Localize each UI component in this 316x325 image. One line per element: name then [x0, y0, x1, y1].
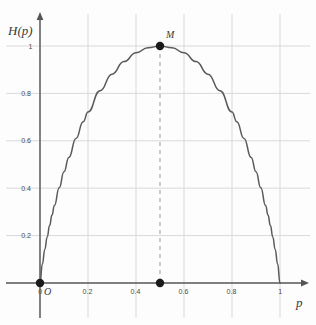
data-point-marker — [156, 42, 164, 50]
x-tick-label: 0.2 — [83, 288, 93, 295]
x-tick-label: 0.6 — [179, 288, 189, 295]
y-axis-title: H(p) — [8, 24, 33, 37]
x-axis-title: p — [296, 296, 303, 309]
x-tick-label: 0.8 — [227, 288, 237, 295]
data-point-marker — [156, 279, 164, 287]
x-axis-arrow-icon — [301, 280, 309, 287]
y-tick-label: 1 — [28, 43, 32, 50]
origin-label: O — [44, 287, 51, 297]
y-tick-label: 0.6 — [21, 137, 31, 144]
peak-point-label: M — [166, 30, 174, 40]
x-tick-label: 0.4 — [131, 288, 141, 295]
y-axis-arrow-icon — [37, 12, 44, 20]
entropy-chart-figure: H(p) p O M 00.20.40.60.810.20.40.60.81 — [0, 0, 316, 325]
data-point-marker — [36, 279, 44, 287]
plot-canvas — [0, 0, 316, 325]
axes-group — [6, 12, 309, 318]
x-tick-label: 0 — [38, 288, 42, 295]
y-tick-label: 0.4 — [21, 185, 31, 192]
gridlines-group — [6, 14, 310, 318]
data-markers-group — [36, 42, 164, 287]
x-tick-label: 1 — [278, 288, 282, 295]
y-tick-label: 0.8 — [21, 90, 31, 97]
y-tick-label: 0.2 — [21, 232, 31, 239]
